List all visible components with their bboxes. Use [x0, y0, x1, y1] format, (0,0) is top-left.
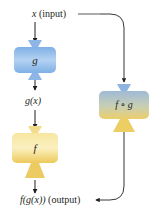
input-note: (input): [39, 8, 66, 19]
machine-g-label: g: [14, 54, 56, 66]
machine-f-label: f: [12, 142, 58, 154]
output-note: (output): [48, 194, 80, 205]
input-variable: x: [32, 8, 36, 19]
output-expression: f(g(x)): [20, 194, 46, 205]
intermediate-label: g(x): [25, 95, 41, 107]
input-label: x (input): [32, 8, 66, 20]
machine-fog-label: f ∘ g: [99, 99, 149, 110]
output-label: f(g(x)) (output): [20, 194, 80, 206]
